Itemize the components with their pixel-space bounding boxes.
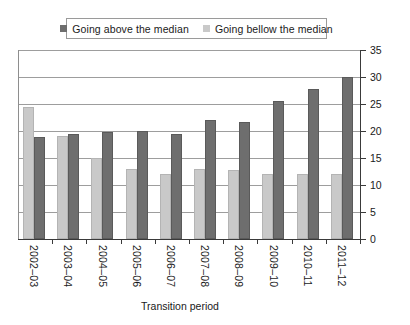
bar-above-median [68, 134, 79, 239]
bar-above-median [342, 77, 353, 239]
bar-above-median [102, 132, 113, 239]
y-tick [360, 185, 366, 186]
bar-below-median [57, 136, 68, 239]
bar-below-median [228, 170, 239, 239]
x-tick [326, 239, 327, 244]
y-tick-label: 20 [370, 126, 382, 136]
bar-group [257, 50, 291, 239]
x-category-label: 2008–09 [233, 245, 245, 287]
x-tick [52, 239, 53, 244]
bar-above-median [205, 120, 216, 239]
y-tick-label: 30 [370, 72, 382, 82]
bar-below-median [91, 158, 102, 239]
x-tick [292, 239, 293, 244]
x-category-label: 2007–08 [199, 245, 211, 287]
legend-item-below: Going bellow the median [203, 23, 333, 35]
y-tick [360, 50, 366, 51]
bar-above-median [308, 89, 319, 239]
y-tick [360, 158, 366, 159]
y-tick [360, 131, 366, 132]
x-tick [121, 239, 122, 244]
x-tick [257, 239, 258, 244]
bar-group [326, 50, 360, 239]
x-tick [155, 239, 156, 244]
x-category-label: 2002–03 [28, 245, 40, 287]
x-tick [223, 239, 224, 244]
y-tick [360, 104, 366, 105]
bar-above-median [273, 101, 284, 239]
y-tick-label: 5 [370, 207, 376, 217]
x-category-label: 2006–07 [165, 245, 177, 287]
bar-below-median [126, 169, 137, 239]
y-tick [360, 77, 366, 78]
x-tick [189, 239, 190, 244]
y-axis-right [360, 50, 361, 239]
x-category-label: 2004–05 [97, 245, 109, 287]
bar-above-median [171, 134, 182, 239]
y-tick-label: 35 [370, 45, 382, 55]
y-tick-label: 25 [370, 99, 382, 109]
x-axis-title: Transition period [0, 300, 360, 312]
bar-below-median [262, 174, 273, 239]
x-tick [86, 239, 87, 244]
plot-area: 05101520253035 2002–032003–042004–052005… [18, 50, 360, 239]
x-category-label: 2005–06 [131, 245, 143, 287]
bar-group [18, 50, 52, 239]
y-tick-label: 0 [370, 234, 376, 244]
x-category-label: 2003–04 [62, 245, 74, 287]
bar-below-median [331, 174, 342, 239]
x-category-label: 2009–10 [268, 245, 280, 287]
y-tick-label: 15 [370, 153, 382, 163]
bar-group [52, 50, 86, 239]
chart-legend: Going above the median Going bellow the … [66, 18, 327, 39]
legend-item-above: Going above the median [60, 23, 189, 35]
legend-swatch-above [60, 25, 67, 32]
x-tick [360, 239, 361, 244]
legend-label-above: Going above the median [72, 23, 189, 35]
bar-group [223, 50, 257, 239]
x-category-label: 2010–11 [302, 245, 314, 287]
bar-chart: Going above the median Going bellow the … [0, 0, 410, 325]
bar-group [292, 50, 326, 239]
bar-group [86, 50, 120, 239]
y-tick [360, 212, 366, 213]
bar-group [189, 50, 223, 239]
bar-above-median [34, 137, 45, 239]
bar-group [155, 50, 189, 239]
bar-above-median [137, 131, 148, 239]
bar-series-container [18, 50, 360, 239]
legend-label-below: Going bellow the median [215, 23, 333, 35]
legend-swatch-below [203, 25, 210, 32]
bar-below-median [297, 174, 308, 239]
bar-group [121, 50, 155, 239]
bar-below-median [23, 107, 34, 239]
y-tick-label: 10 [370, 180, 382, 190]
bar-below-median [160, 174, 171, 239]
bar-above-median [239, 122, 250, 239]
x-category-label: 2011–12 [336, 245, 348, 287]
bar-below-median [194, 169, 205, 239]
